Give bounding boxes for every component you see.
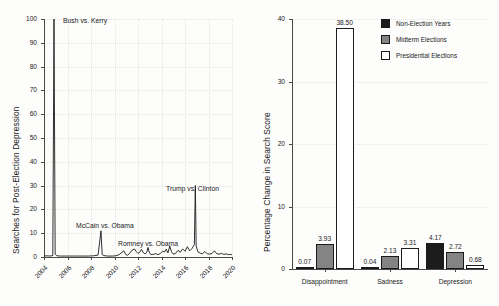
left-y-tick-label: 50 xyxy=(18,134,37,141)
left-y-tick-label: 30 xyxy=(18,182,37,189)
annotation-mccain-obama: McCain vs. Obama xyxy=(76,222,134,229)
left-x-tick-label: 2020 xyxy=(212,264,237,289)
left-x-tick-label: 2004 xyxy=(24,264,49,289)
right-x-tick-mark xyxy=(390,269,391,272)
right-y-axis-line xyxy=(292,19,293,269)
legend-swatch-presidential xyxy=(381,51,390,60)
left-y-tick-label: 20 xyxy=(18,205,37,212)
left-gridline-v xyxy=(232,19,233,257)
left-y-tick-label: 40 xyxy=(18,158,37,165)
right-y-tick-label: 30 xyxy=(266,78,285,85)
legend-label-non-election: Non-Election Years xyxy=(396,19,450,28)
left-x-tick-label: 2018 xyxy=(188,264,213,289)
left-y-tick-label: 100 xyxy=(18,15,37,22)
left-x-axis-line xyxy=(44,257,232,258)
legend-swatch-non-election xyxy=(381,19,390,28)
timeseries-panel: Searches for Post-Election Depression 01… xyxy=(0,0,249,306)
bar-value-label: 3.93 xyxy=(311,235,339,242)
left-x-tick-label: 2008 xyxy=(71,264,96,289)
left-x-tick-label: 2016 xyxy=(165,264,190,289)
legend-swatch-midterm xyxy=(381,35,390,44)
bar-value-label: 0.04 xyxy=(356,258,384,265)
annotation-romney-obama: Romney vs. Obama xyxy=(118,240,178,247)
bar-value-label: 4.17 xyxy=(421,234,449,241)
left-x-tick-label: 2014 xyxy=(141,264,166,289)
timeseries-line xyxy=(44,19,232,257)
right-y-tick-label: 20 xyxy=(266,140,285,147)
legend-label-midterm: Midterm Elections xyxy=(396,35,447,44)
left-x-tick-mark xyxy=(232,257,233,260)
bar-sadness-2[interactable] xyxy=(401,248,419,269)
figure-canvas: Searches for Post-Election Depression 01… xyxy=(0,0,499,306)
right-gridline-h xyxy=(292,82,488,83)
bar-sadness-1[interactable] xyxy=(381,256,399,269)
bar-sadness-0[interactable] xyxy=(361,267,379,269)
left-y-tick-label: 0 xyxy=(18,253,37,260)
bar-value-label: 0.07 xyxy=(291,258,319,265)
right-y-tick-label: 40 xyxy=(266,15,285,22)
right-gridline-h xyxy=(292,19,488,20)
left-x-tick-label: 2012 xyxy=(118,264,143,289)
right-y-tick-label: 10 xyxy=(266,203,285,210)
right-gridline-h xyxy=(292,144,488,145)
bar-depression-2[interactable] xyxy=(466,265,484,269)
bar-value-label: 2.72 xyxy=(441,243,469,250)
bar-panel: Percentage Change in Search Score 010203… xyxy=(250,0,499,306)
left-y-tick-label: 80 xyxy=(18,63,37,70)
bar-disappointment-2[interactable] xyxy=(336,28,354,269)
legend-label-presidential: Presidential Elections xyxy=(396,51,457,60)
right-x-tick-mark xyxy=(455,269,456,272)
left-y-tick-label: 10 xyxy=(18,229,37,236)
left-y-tick-label: 90 xyxy=(18,39,37,46)
left-y-tick-label: 70 xyxy=(18,86,37,93)
left-y-tick-label: 60 xyxy=(18,110,37,117)
right-y-tick-label: 0 xyxy=(266,265,285,272)
annotation-trump-clinton: Trump vs. Clinton xyxy=(166,185,219,192)
bar-value-label: 2.13 xyxy=(376,247,404,254)
bar-value-label: 0.68 xyxy=(461,256,489,263)
bar-disappointment-0[interactable] xyxy=(296,267,314,269)
right-x-tick-mark xyxy=(325,269,326,272)
bar-value-label: 3.31 xyxy=(396,239,424,246)
bar-disappointment-1[interactable] xyxy=(316,244,334,269)
bar-value-label: 38.50 xyxy=(331,19,359,26)
bar-category-label: Depression xyxy=(415,278,495,285)
right-y-axis-title: Percentage Change in Search Score xyxy=(262,12,272,252)
annotation-bush-kerry: Bush vs. Kerry xyxy=(63,17,107,24)
left-x-tick-label: 2006 xyxy=(47,264,72,289)
right-gridline-h xyxy=(292,207,488,208)
left-x-tick-label: 2010 xyxy=(94,264,119,289)
